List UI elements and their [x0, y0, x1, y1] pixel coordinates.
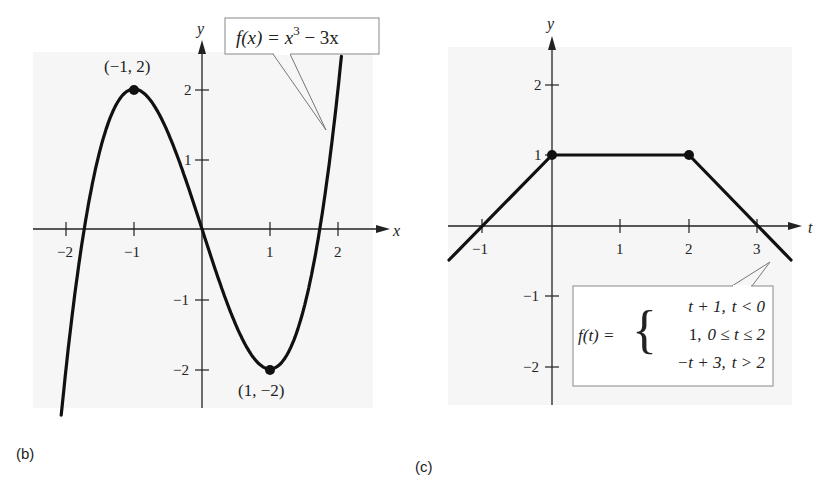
- caption-b: (b): [16, 445, 34, 462]
- x-tick-label: 3: [753, 241, 761, 257]
- chart-panel-c: −1 1 2 3 2 1 −1 −2 t y f(t) = { t + 1,t …: [410, 0, 826, 420]
- endpoint-2-1: [684, 150, 694, 160]
- chart-panel-b: −2 −1 1 2 2 1 −1 −2 x y (−1, 2) (1, −2) …: [0, 0, 410, 420]
- y-tick-label: 1: [534, 147, 542, 163]
- x-axis-label: x: [392, 222, 400, 239]
- case-row-3: −t + 3,t > 2: [677, 353, 766, 372]
- x-tick-label: 2: [685, 241, 693, 257]
- max-point-label: (−1, 2): [104, 57, 150, 76]
- y-axis-label: y: [545, 15, 555, 33]
- y-axis-arrow-icon: [548, 36, 556, 50]
- x-axis-label: t: [808, 219, 813, 236]
- equation-text: f(x) = x3 − 3x: [236, 23, 339, 49]
- cubic-plot: −2 −1 1 2 2 1 −1 −2 x y (−1, 2) (1, −2) …: [0, 0, 410, 420]
- y-axis-arrow-icon: [198, 40, 206, 54]
- x-tick-label: −1: [124, 244, 140, 260]
- y-tick-label: −2: [523, 359, 539, 375]
- max-point: [129, 85, 139, 95]
- x-tick-label: −1: [472, 241, 488, 257]
- x-axis-arrow-icon: [376, 225, 390, 233]
- y-tick-label: 2: [184, 82, 192, 98]
- y-tick-label: 2: [534, 77, 542, 93]
- piecewise-lhs: f(t) =: [578, 326, 615, 345]
- caption-c: (c): [415, 458, 433, 475]
- brace-icon: {: [632, 301, 657, 358]
- y-tick-label: −1: [173, 292, 189, 308]
- min-point-label: (1, −2): [238, 381, 284, 400]
- x-tick-label: −2: [57, 244, 73, 260]
- y-axis-label: y: [195, 20, 205, 38]
- endpoint-0-1: [547, 150, 557, 160]
- min-point: [265, 365, 275, 375]
- y-tick-label: −1: [523, 288, 539, 304]
- x-axis-arrow-icon: [788, 222, 802, 230]
- x-tick-label: 2: [334, 244, 342, 260]
- y-tick-label: −2: [173, 362, 189, 378]
- case-row-2: 1,0 ≤ t ≤ 2: [689, 325, 766, 344]
- piecewise-plot: −1 1 2 3 2 1 −1 −2 t y f(t) = { t + 1,t …: [410, 0, 826, 420]
- x-tick-label: 1: [616, 241, 624, 257]
- y-tick-label: 1: [184, 152, 192, 168]
- x-tick-label: 1: [266, 244, 274, 260]
